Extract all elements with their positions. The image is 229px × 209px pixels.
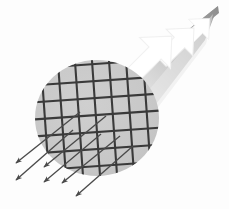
figure-canvas	[0, 0, 229, 209]
scattering-figure	[0, 0, 229, 209]
